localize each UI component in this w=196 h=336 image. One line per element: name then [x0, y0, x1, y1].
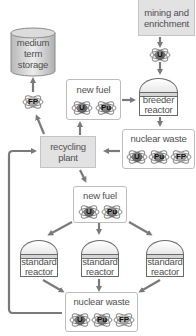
new-fuel-mid-box: new fuel U Pu — [73, 186, 127, 223]
breeder-reactor-label: breeder reactor — [139, 95, 178, 115]
arrow-right-reactor-to-waste — [141, 280, 160, 291]
plutonium-atom-icon: Pu — [101, 205, 123, 219]
new-fuel-mid-label: new fuel — [74, 190, 126, 201]
recycling-plant-label: recycling plant — [41, 141, 95, 163]
arrow-recycling-to-fp — [37, 117, 44, 134]
storage-label: medium term storage — [10, 37, 56, 70]
fission-products-atom-icon: FP — [22, 95, 44, 109]
nuclear-waste-bottom-label: nuclear waste — [66, 296, 137, 307]
nuclear-waste-top-box: nuclear waste U Pu FP — [122, 129, 195, 169]
reactor-dome-icon — [146, 240, 184, 254]
nuclear-waste-top-label: nuclear waste — [123, 133, 194, 144]
new-fuel-top-label: new fuel — [67, 84, 120, 95]
reactor-dome-icon — [139, 78, 178, 92]
standard-reactor-left-label: standard reactor — [20, 257, 58, 277]
arrow-recycling-to-newfuel-mid — [80, 170, 85, 180]
uranium-atom-icon: U — [69, 313, 91, 327]
uranium-atom-icon: U — [71, 101, 93, 115]
uranium-atom-icon: U — [126, 150, 148, 164]
plutonium-atom-icon: Pu — [148, 150, 170, 164]
plutonium-atom-icon: Pu — [91, 313, 113, 327]
arrow-left-reactor-to-waste — [43, 280, 62, 291]
recycling-plant-box: recycling plant — [40, 136, 96, 168]
standard-reactor-center-label: standard reactor — [81, 257, 119, 277]
uranium-atom-icon: U — [149, 48, 171, 62]
uranium-atom-icon: U — [78, 205, 100, 219]
new-fuel-top-box: new fuel U Pu — [66, 79, 121, 120]
arrow-newfuel-to-left-reactor — [50, 222, 72, 234]
reactor-dome-icon — [20, 240, 58, 254]
medium-term-storage: medium term storage — [10, 27, 56, 77]
reactor-dome-icon — [81, 240, 119, 254]
plutonium-atom-icon: Pu — [95, 101, 117, 115]
arrow-newfuel-to-right-reactor — [129, 222, 150, 234]
breeder-reactor: breeder reactor — [139, 78, 178, 116]
standard-reactor-center: standard reactor — [81, 240, 119, 277]
standard-reactor-right-label: standard reactor — [146, 257, 184, 277]
nuclear-waste-bottom-box: nuclear waste U Pu FP — [65, 292, 138, 332]
standard-reactor-left: standard reactor — [20, 240, 58, 277]
mining-enrichment-label: mining and enrichment — [139, 7, 194, 29]
mining-enrichment-box: mining and enrichment — [138, 0, 195, 36]
fission-products-atom-icon: FP — [113, 313, 135, 327]
fission-products-atom-icon: FP — [170, 150, 192, 164]
standard-reactor-right: standard reactor — [146, 240, 184, 277]
